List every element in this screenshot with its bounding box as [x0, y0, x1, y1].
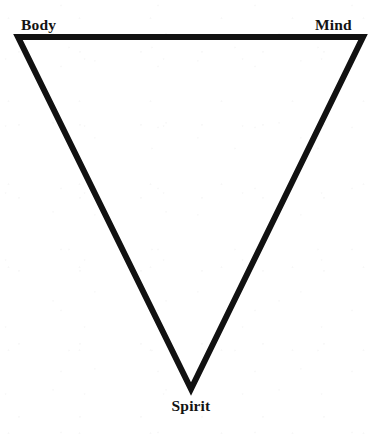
- inverted-triangle-diagram: [0, 0, 381, 439]
- vertex-label-mind: Mind: [315, 17, 352, 33]
- figure-container: Body Mind Spirit: [0, 0, 381, 439]
- vertex-label-body: Body: [21, 17, 56, 33]
- triangle-outline: [18, 37, 363, 389]
- vertex-label-spirit: Spirit: [0, 398, 381, 414]
- vertex-label-spirit-text: Spirit: [172, 398, 211, 414]
